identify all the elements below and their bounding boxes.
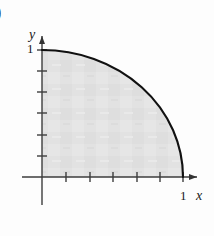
shaded-region <box>42 50 183 177</box>
y-axis-label: y <box>29 28 35 42</box>
x-axis-label: x <box>196 189 202 203</box>
figure-container: ) y x 1 1 <box>0 0 214 236</box>
y-tick-label-one: 1 <box>27 42 34 55</box>
x-tick-label-one: 1 <box>180 189 187 202</box>
panel-label: ) <box>0 2 1 21</box>
